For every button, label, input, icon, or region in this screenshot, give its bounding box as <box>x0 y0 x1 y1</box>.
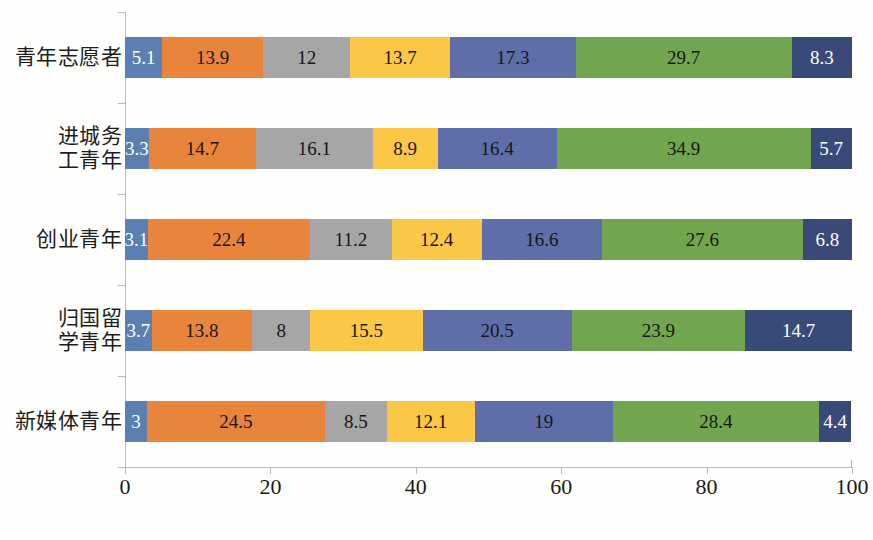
plot-area: 5.113.91213.717.329.78.33.314.716.18.916… <box>125 12 852 467</box>
y-axis-tick <box>118 467 125 468</box>
bar-segment: 27.6 <box>602 219 802 260</box>
bar-segment: 16.4 <box>438 128 557 169</box>
bar-segment: 11.2 <box>310 219 391 260</box>
bar-segment: 34.9 <box>557 128 811 169</box>
bar-segment-value-label: 16.1 <box>298 139 331 158</box>
bar-segment-value-label: 8.5 <box>344 412 368 431</box>
bar-segment: 12.4 <box>392 219 482 260</box>
x-axis-tick <box>707 467 708 474</box>
bar-segment-value-label: 29.7 <box>667 48 700 67</box>
y-axis-tick <box>118 194 125 195</box>
stacked-bar-chart: 青年志愿者进城务 工青年创业青年归国留 学青年新媒体青年 5.113.91213… <box>0 0 873 540</box>
bar-segment: 5.1 <box>125 37 162 78</box>
bar-segment-value-label: 27.6 <box>686 230 719 249</box>
bar-segment: 12.1 <box>387 401 475 442</box>
bar-segment-value-label: 13.7 <box>384 48 417 67</box>
bar-segment: 13.9 <box>162 37 263 78</box>
y-axis-tick <box>118 285 125 286</box>
bar-segment-value-label: 8.9 <box>393 139 417 158</box>
bar-segment-value-label: 5.7 <box>819 139 843 158</box>
bar-segment-value-label: 16.6 <box>525 230 558 249</box>
bar-segment: 8 <box>252 310 310 351</box>
x-axis-tick-label: 80 <box>696 474 718 500</box>
bar-segment-value-label: 6.8 <box>815 230 839 249</box>
bar-segment: 19 <box>475 401 613 442</box>
bar-segment: 13.7 <box>350 37 450 78</box>
bar-segment-value-label: 24.5 <box>219 412 252 431</box>
bar-segment-value-label: 20.5 <box>481 321 514 340</box>
bar-segment: 16.6 <box>482 219 603 260</box>
bar-segment: 23.9 <box>572 310 746 351</box>
bar-segment-value-label: 12 <box>297 48 316 67</box>
bar-segment-value-label: 3.3 <box>125 139 149 158</box>
bar-segment-value-label: 34.9 <box>667 139 700 158</box>
bar-segment: 4.4 <box>819 401 851 442</box>
bar-segment: 3 <box>125 401 147 442</box>
bar-segment-value-label: 15.5 <box>350 321 383 340</box>
bar-segment: 6.8 <box>803 219 852 260</box>
bar-segment: 16.1 <box>256 128 373 169</box>
bar-segment: 24.5 <box>147 401 325 442</box>
y-axis-category-label: 新媒体青年 <box>4 410 122 434</box>
bar-segment-value-label: 17.3 <box>496 48 529 67</box>
bar-segment-value-label: 13.9 <box>196 48 229 67</box>
bar-segment-value-label: 8.3 <box>810 48 834 67</box>
bar-segment-value-label: 14.7 <box>782 321 815 340</box>
bar-segment: 28.4 <box>613 401 819 442</box>
x-axis-line <box>125 467 852 468</box>
bar-segment: 20.5 <box>423 310 572 351</box>
x-axis-tick-label: 0 <box>120 474 131 500</box>
bar-segment-value-label: 28.4 <box>699 412 732 431</box>
x-axis-tick-labels: 020406080100 <box>125 474 852 514</box>
bar-segment: 3.7 <box>125 310 152 351</box>
bar-segment: 17.3 <box>450 37 576 78</box>
bar-segment-value-label: 3 <box>131 412 141 431</box>
bar-row: 3.122.411.212.416.627.66.8 <box>125 219 852 260</box>
bar-segment: 14.7 <box>149 128 256 169</box>
x-axis-tick <box>852 467 853 474</box>
x-axis-tick-label: 100 <box>836 474 869 500</box>
bar-segment-value-label: 14.7 <box>186 139 219 158</box>
x-axis-tick-label: 20 <box>259 474 281 500</box>
x-axis-tick <box>125 467 126 474</box>
y-axis-category-label: 归国留 学青年 <box>4 307 122 354</box>
y-axis-tick <box>118 12 125 13</box>
bar-segment-value-label: 11.2 <box>335 230 368 249</box>
bar-row: 3.314.716.18.916.434.95.7 <box>125 128 852 169</box>
bar-segment: 12 <box>263 37 350 78</box>
bar-row: 3.713.8815.520.523.914.7 <box>125 310 852 351</box>
bar-segment-value-label: 8 <box>276 321 286 340</box>
bar-segment: 29.7 <box>576 37 792 78</box>
bar-segment: 8.9 <box>373 128 438 169</box>
y-axis-category-labels: 青年志愿者进城务 工青年创业青年归国留 学青年新媒体青年 <box>0 0 122 540</box>
bar-segment-value-label: 23.9 <box>642 321 675 340</box>
bar-segment-value-label: 13.8 <box>185 321 218 340</box>
bar-segment-value-label: 3.7 <box>127 321 151 340</box>
bar-segment-value-label: 3.1 <box>125 230 148 249</box>
bar-row: 324.58.512.11928.44.4 <box>125 401 852 442</box>
bar-segment-value-label: 12.1 <box>414 412 447 431</box>
bar-segment-value-label: 22.4 <box>212 230 245 249</box>
bar-segment-value-label: 16.4 <box>481 139 514 158</box>
x-axis-tick <box>270 467 271 474</box>
bar-segment: 8.3 <box>792 37 852 78</box>
bar-segment: 3.1 <box>125 219 148 260</box>
bar-segment-value-label: 4.4 <box>823 412 847 431</box>
bar-segment-value-label: 19 <box>534 412 553 431</box>
bar-segment: 14.7 <box>745 310 852 351</box>
y-axis-category-label: 进城务 工青年 <box>4 125 122 172</box>
bar-row: 5.113.91213.717.329.78.3 <box>125 37 852 78</box>
bar-segment-value-label: 5.1 <box>132 48 156 67</box>
y-axis-tick <box>118 376 125 377</box>
bar-segment: 5.7 <box>811 128 852 169</box>
x-axis-tick <box>561 467 562 474</box>
y-axis-tick <box>118 103 125 104</box>
y-axis-category-label: 青年志愿者 <box>4 46 122 70</box>
x-axis-tick-label: 40 <box>405 474 427 500</box>
bar-segment: 22.4 <box>148 219 311 260</box>
bar-segment: 13.8 <box>152 310 252 351</box>
x-axis-tick <box>416 467 417 474</box>
bar-segment: 15.5 <box>310 310 423 351</box>
x-axis-tick-label: 60 <box>550 474 572 500</box>
bar-segment-value-label: 12.4 <box>420 230 453 249</box>
